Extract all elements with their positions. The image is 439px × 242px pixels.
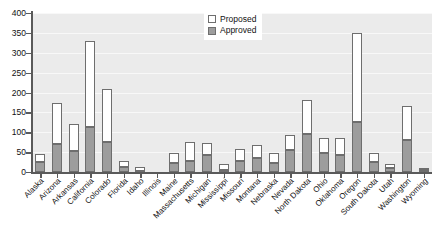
y-axis-tick <box>26 172 32 173</box>
bar-nevada <box>285 135 295 172</box>
bar-segment-approved <box>185 161 195 172</box>
bar-chart: 400350300250200150100500 AlaskaArizonaAr… <box>0 0 439 242</box>
bar-segment-proposed <box>52 103 62 144</box>
bar-segment-proposed <box>352 33 362 122</box>
y-axis-tick <box>26 33 32 34</box>
bar-segment-proposed <box>335 138 345 155</box>
bar-segment-proposed <box>402 106 412 140</box>
y-axis-tick <box>26 73 32 74</box>
bar-mississippi <box>219 164 229 172</box>
bar-colorado <box>102 89 112 172</box>
bar-segment-approved <box>352 122 362 172</box>
bar-segment-approved <box>252 158 262 172</box>
bar-segment-approved <box>52 144 62 172</box>
bar-segment-proposed <box>102 89 112 142</box>
bar-segment-proposed <box>169 153 179 163</box>
bar-massachusetts <box>185 142 195 172</box>
bar-segment-proposed <box>185 142 195 161</box>
bar-segment-approved <box>302 134 312 172</box>
bar-california <box>85 41 95 172</box>
bar-missouri <box>235 149 245 172</box>
y-axis-tick-label: 100 <box>0 128 26 137</box>
legend-swatch-approved <box>208 27 216 35</box>
bar-ohio <box>319 138 329 172</box>
bar-segment-proposed <box>269 153 279 164</box>
bar-oklahoma <box>335 138 345 172</box>
bar-washington <box>402 106 412 172</box>
y-axis-tick-label: 250 <box>0 69 26 78</box>
bar-segment-proposed <box>35 154 45 163</box>
bar-segment-approved <box>335 155 345 172</box>
bar-segment-proposed <box>302 100 312 134</box>
legend-label-approved: Approved <box>220 26 256 35</box>
legend-item-approved: Approved <box>208 25 256 36</box>
bar-segment-proposed <box>252 145 262 158</box>
bar-segment-proposed <box>202 143 212 155</box>
chart-legend: Proposed Approved <box>204 10 262 40</box>
bar-montana <box>252 145 262 172</box>
bar-arizona <box>52 103 62 172</box>
bar-segment-approved <box>235 161 245 172</box>
y-axis-tick-label: 0 <box>0 168 26 177</box>
bar-alaska <box>35 154 45 172</box>
bar-segment-proposed <box>85 41 95 128</box>
bar-segment-approved <box>319 153 329 172</box>
bar-segment-approved <box>169 163 179 172</box>
legend-item-proposed: Proposed <box>208 14 256 25</box>
bar-nebraska <box>269 153 279 172</box>
legend-label-proposed: Proposed <box>220 15 256 24</box>
bar-utah <box>385 164 395 172</box>
bar-segment-approved <box>35 162 45 172</box>
y-axis-tick-label: 300 <box>0 49 26 58</box>
legend-swatch-proposed <box>208 15 216 23</box>
bar-segment-proposed <box>235 149 245 161</box>
y-axis-tick <box>26 112 32 113</box>
y-axis-tick-label: 200 <box>0 89 26 98</box>
bar-segment-proposed <box>69 124 79 151</box>
bar-segment-proposed <box>369 153 379 162</box>
y-axis-tick-label: 350 <box>0 29 26 38</box>
bar-florida <box>119 161 129 172</box>
bar-michigan <box>202 143 212 172</box>
bar-maine <box>169 153 179 172</box>
bar-segment-approved <box>369 162 379 172</box>
bar-arkansas <box>69 124 79 172</box>
y-axis-tick-label: 150 <box>0 108 26 117</box>
bar-segment-approved <box>269 163 279 172</box>
y-axis-tick <box>26 93 32 94</box>
y-axis-tick-label: 50 <box>0 148 26 157</box>
bar-north-dakota <box>302 100 312 172</box>
y-axis-tick <box>26 152 32 153</box>
y-axis-tick <box>26 53 32 54</box>
bar-south-dakota <box>369 153 379 172</box>
y-axis-tick <box>26 132 32 133</box>
bar-segment-approved <box>69 151 79 172</box>
bar-segment-approved <box>285 150 295 172</box>
bar-segment-approved <box>402 140 412 172</box>
y-axis-tick-label: 400 <box>0 9 26 18</box>
y-axis-tick <box>26 13 32 14</box>
bar-segment-approved <box>202 155 212 172</box>
bar-segment-proposed <box>319 138 329 153</box>
bar-segment-proposed <box>285 135 295 149</box>
bar-segment-approved <box>102 142 112 172</box>
bar-segment-approved <box>85 127 95 172</box>
bar-oregon <box>352 33 362 172</box>
